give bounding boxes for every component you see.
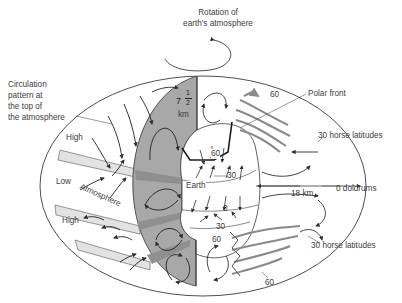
lat-60-south: 60: [212, 235, 221, 245]
circulation-label-line4: the atmosphere: [8, 113, 65, 123]
earth-label: Earth: [186, 181, 206, 191]
polar-front-label: Polar front: [308, 89, 346, 99]
lat-0: 0: [223, 204, 228, 214]
rotation-title-line1: Rotation of: [178, 8, 258, 18]
circulation-label-line3: the top of: [8, 102, 42, 112]
circulation-label-line2: pattern at: [8, 91, 43, 101]
high-bottom-label: High: [62, 216, 79, 226]
sixty-top-label: 60: [270, 90, 279, 100]
rotation-arrow-icon: [165, 40, 231, 71]
high-top-label: High: [66, 133, 83, 143]
low-label: Low: [56, 177, 71, 187]
horse-latitudes-top-label: 30 horse latitudes: [318, 131, 383, 141]
height-num: 1: [186, 89, 190, 96]
horse-latitudes-bottom-label: 30 horse latitudes: [311, 241, 376, 251]
lat-60-north: 60: [211, 149, 220, 159]
lat-30-south: 30: [216, 222, 225, 232]
height-unit: km: [178, 110, 189, 120]
lat-30-north: 30: [227, 171, 236, 181]
rotation-title-line2: earth's atmosphere: [172, 19, 264, 29]
height-den: 2: [186, 99, 190, 106]
doldrums-label: 0 doldrums: [336, 184, 377, 194]
equator-height-label: 18 km: [291, 189, 313, 199]
circulation-label-line1: Circulation: [8, 80, 47, 90]
height-whole: 7: [176, 96, 181, 106]
sixty-bottom-label: 60: [265, 278, 274, 288]
atmosphere-diagram: [0, 0, 402, 303]
